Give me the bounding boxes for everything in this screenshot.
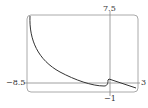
- ymin-label: −1: [104, 95, 116, 103]
- ymax-label: 7.5: [103, 5, 116, 13]
- plot-canvas: [0, 0, 148, 108]
- viewing-window-frame: [27, 15, 138, 92]
- function-curve: [30, 16, 136, 88]
- xmax-label: 3: [141, 79, 146, 87]
- xmin-label: −8.5: [6, 79, 25, 87]
